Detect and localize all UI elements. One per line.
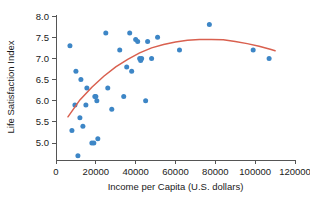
- chart-container: 5.05.56.06.57.07.58.0 020000400006000080…: [0, 0, 310, 205]
- x-tick-label: 80000: [202, 166, 228, 177]
- x-tick-label: 100000: [239, 166, 271, 177]
- data-point: [69, 128, 74, 133]
- scatter-plot: 5.05.56.06.57.07.58.0 020000400006000080…: [0, 0, 310, 205]
- x-tick-label: 20000: [83, 166, 109, 177]
- data-point: [93, 94, 98, 99]
- x-tick-label: 120000: [279, 166, 310, 177]
- data-point: [139, 56, 144, 61]
- data-point: [267, 56, 272, 61]
- data-point: [91, 141, 96, 146]
- y-tick-label: 5.0: [36, 137, 49, 148]
- data-point: [109, 107, 114, 112]
- data-point: [124, 64, 129, 69]
- data-point: [95, 136, 100, 141]
- y-tick-label: 6.5: [36, 74, 49, 85]
- data-point: [149, 56, 154, 61]
- data-point: [251, 47, 256, 52]
- data-point: [117, 47, 122, 52]
- data-point: [77, 115, 82, 120]
- data-point: [155, 35, 160, 40]
- data-point: [105, 86, 110, 91]
- data-point: [207, 22, 212, 27]
- data-point: [73, 69, 78, 74]
- data-point: [78, 77, 83, 82]
- x-axis: 020000400006000080000100000120000: [53, 160, 310, 177]
- data-point: [67, 43, 72, 48]
- data-point: [80, 124, 85, 129]
- y-tick-label: 7.0: [36, 53, 49, 64]
- data-point: [94, 98, 99, 103]
- y-tick-label: 5.5: [36, 116, 49, 127]
- data-point: [127, 31, 132, 36]
- x-tick-label: 60000: [162, 166, 188, 177]
- data-point: [143, 98, 148, 103]
- x-tick-label: 0: [53, 166, 58, 177]
- data-point: [177, 47, 182, 52]
- data-point: [75, 153, 80, 158]
- y-axis-title: Life Satisfaction Index: [5, 40, 16, 133]
- x-axis-title: Income per Capita (U.S. dollars): [108, 181, 244, 192]
- y-tick-label: 7.5: [36, 32, 49, 43]
- data-point: [135, 39, 140, 44]
- data-point: [129, 69, 134, 74]
- data-point: [103, 31, 108, 36]
- regression-curve: [68, 39, 275, 116]
- y-tick-label: 8.0: [36, 11, 49, 22]
- data-point: [83, 102, 88, 107]
- y-axis: 5.05.56.06.57.07.58.0: [36, 11, 56, 160]
- data-point: [121, 94, 126, 99]
- y-tick-label: 6.0: [36, 95, 49, 106]
- fit-curve-path: [68, 39, 275, 116]
- data-point: [145, 39, 150, 44]
- x-tick-label: 40000: [122, 166, 148, 177]
